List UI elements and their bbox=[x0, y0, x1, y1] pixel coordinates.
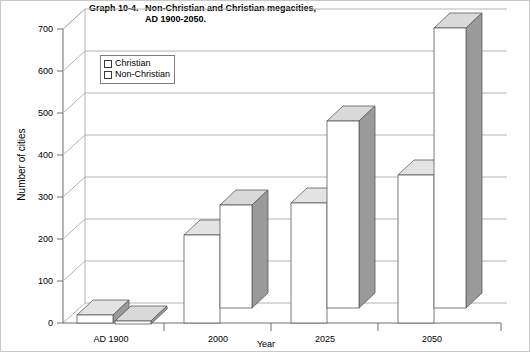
chart-canvas bbox=[1, 1, 530, 352]
chart-legend: Christian Non-Christian bbox=[100, 55, 175, 84]
bar-2000-nonchristian bbox=[220, 190, 268, 308]
legend-item-nonchristian: Non-Christian bbox=[104, 69, 170, 80]
legend-label-christian: Christian bbox=[115, 58, 151, 69]
y-tick-marks bbox=[57, 29, 63, 323]
legend-label-nonchristian: Non-Christian bbox=[115, 69, 170, 80]
plot-area: 0 100 200 300 400 500 600 700 AD 1900 20… bbox=[1, 1, 530, 352]
x-tick-label-1900: AD 1900 bbox=[56, 334, 166, 344]
y-tick-label-0: 0 bbox=[19, 319, 53, 328]
y-tick-label-700: 700 bbox=[19, 25, 53, 34]
bar-2050-nonchristian bbox=[434, 13, 482, 308]
y-axis-title: Number of cities bbox=[16, 100, 27, 230]
y-tick-label-200: 200 bbox=[19, 235, 53, 244]
white-square-icon bbox=[104, 71, 112, 79]
chart-figure: Graph 10-4.Non-Christian and Christian m… bbox=[0, 0, 530, 352]
bar-2025-nonchristian bbox=[327, 106, 375, 308]
x-tick-marks bbox=[164, 323, 501, 331]
y-tick-label-600: 600 bbox=[19, 67, 53, 76]
x-axis-title: Year bbox=[216, 339, 316, 349]
x-tick-label-2050: 2050 bbox=[377, 334, 487, 344]
legend-item-christian: Christian bbox=[104, 58, 170, 69]
y-tick-label-100: 100 bbox=[19, 277, 53, 286]
white-square-icon bbox=[104, 60, 112, 68]
